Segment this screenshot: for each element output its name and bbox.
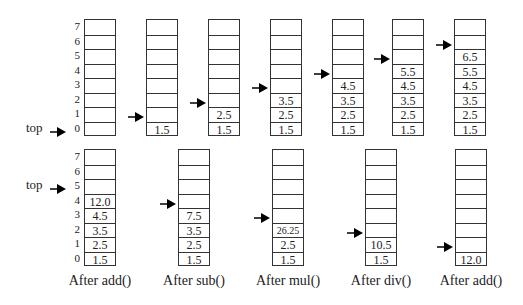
stack-cell <box>147 93 177 108</box>
stack-cell <box>271 20 301 35</box>
top-pointer-arrow-icon <box>436 36 452 46</box>
stack-cell: 7.5 <box>179 208 209 223</box>
stack-cell <box>456 194 486 209</box>
top-pointer-arrow-icon <box>50 180 66 190</box>
stack-cell <box>333 64 363 79</box>
stack-cell <box>85 179 115 194</box>
stack-cell <box>333 49 363 64</box>
top-pointer-arrow-icon <box>347 224 363 234</box>
stack-cell <box>209 78 239 93</box>
stack-cell: 10.5 <box>366 237 396 252</box>
stack-cell: 2.5 <box>273 237 303 252</box>
stack-cell: 4.5 <box>333 78 363 93</box>
stack-cell <box>271 49 301 64</box>
stack-cell <box>366 194 396 209</box>
stack-cell: 3.5 <box>393 93 423 108</box>
stack-cell: 2.5 <box>393 107 423 122</box>
stack-cell <box>271 78 301 93</box>
stack-cell: 1.5 <box>209 122 239 137</box>
top-pointer-arrow-icon <box>160 195 176 205</box>
stack-cell: 6.5 <box>455 49 485 64</box>
stack-cell <box>85 64 115 79</box>
stack-cell <box>456 165 486 180</box>
stack-cell: 26.25 <box>273 223 303 238</box>
stack-cell <box>455 35 485 50</box>
index-label: 4 <box>70 194 80 206</box>
stack-cell: 2.5 <box>85 237 115 252</box>
stack: 6.55.54.53.52.51.5 <box>454 19 486 136</box>
stack-cell <box>273 179 303 194</box>
top-pointer-arrow-icon <box>374 50 390 60</box>
stack-cell: 2.5 <box>209 107 239 122</box>
top-pointer-arrow-icon <box>190 94 206 104</box>
stack: 2.51.5 <box>208 19 240 136</box>
top-label: top <box>26 120 43 136</box>
stack-cell <box>393 20 423 35</box>
stack-cell <box>366 223 396 238</box>
index-label: 6 <box>70 165 80 177</box>
stack: 3.52.51.5 <box>270 19 302 136</box>
index-label: 1 <box>70 107 80 119</box>
stack-cell <box>273 194 303 209</box>
index-label: 3 <box>70 78 80 90</box>
stack-cell <box>147 107 177 122</box>
stack-cell <box>271 64 301 79</box>
stack-cell <box>147 49 177 64</box>
stack-cell <box>366 150 396 165</box>
stack-cell: 2.5 <box>271 107 301 122</box>
stack: 12.0 <box>455 149 487 266</box>
stack: 1.5 <box>146 19 178 136</box>
stack-cell <box>273 165 303 180</box>
index-label: 4 <box>70 64 80 76</box>
stack-cell: 2.5 <box>179 237 209 252</box>
stack-cell: 12.0 <box>456 252 486 267</box>
index-label: 3 <box>70 208 80 220</box>
stack-cell <box>209 64 239 79</box>
stack-cell: 3.5 <box>85 223 115 238</box>
stack-cell <box>85 122 115 137</box>
index-label: 5 <box>70 179 80 191</box>
stack-cell <box>393 35 423 50</box>
stack-cell: 1.5 <box>333 122 363 137</box>
stack-cell <box>147 78 177 93</box>
stack-cell <box>85 78 115 93</box>
stack-cell <box>179 194 209 209</box>
stack-cell <box>179 165 209 180</box>
stack-cell: 4.5 <box>85 208 115 223</box>
top-pointer-arrow-icon <box>128 108 144 118</box>
stack-cell <box>333 20 363 35</box>
stack-cell <box>393 49 423 64</box>
stack-cell: 1.5 <box>147 122 177 137</box>
stack-cell <box>366 179 396 194</box>
stack-cell <box>85 165 115 180</box>
stack-cell <box>85 20 115 35</box>
stack-cell <box>85 93 115 108</box>
index-label: 2 <box>70 93 80 105</box>
index-label: 1 <box>70 237 80 249</box>
stack-cell <box>179 150 209 165</box>
stack-cell: 4.5 <box>393 78 423 93</box>
stack-cell <box>366 165 396 180</box>
stack-cell <box>456 150 486 165</box>
stack-cell <box>209 93 239 108</box>
stack-cell: 3.5 <box>179 223 209 238</box>
stack-cell: 3.5 <box>271 93 301 108</box>
stack-cell <box>366 208 396 223</box>
stack-cell <box>85 35 115 50</box>
index-label: 2 <box>70 223 80 235</box>
stack-cell <box>271 35 301 50</box>
stack-cell <box>456 237 486 252</box>
stack: 12.04.53.52.51.5 <box>84 149 116 266</box>
top-pointer-arrow-icon <box>50 123 66 133</box>
stack-cell: 1.5 <box>179 252 209 267</box>
index-label: 5 <box>70 49 80 61</box>
stack-cell <box>209 20 239 35</box>
top-pointer-arrow-icon <box>314 65 330 75</box>
stack-cell <box>147 35 177 50</box>
stack: 4.53.52.51.5 <box>332 19 364 136</box>
index-label: 0 <box>70 252 80 264</box>
stack-cell <box>85 49 115 64</box>
stack: 26.252.51.5 <box>272 149 304 266</box>
stack-cell <box>455 20 485 35</box>
stack-cell <box>147 64 177 79</box>
